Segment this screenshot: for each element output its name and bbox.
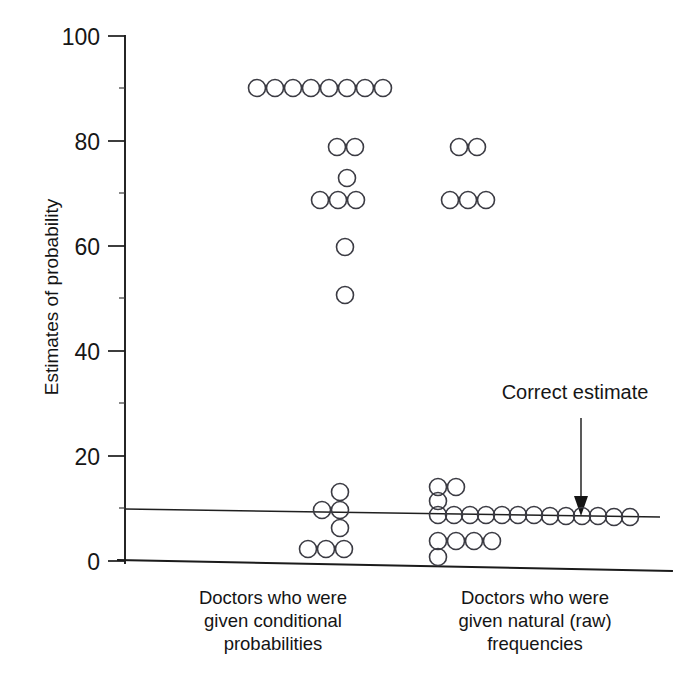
data-point xyxy=(466,533,483,550)
data-point xyxy=(460,192,477,209)
annotation-arrow-group xyxy=(574,418,588,516)
y-tick-label-80: 80 xyxy=(74,129,100,155)
data-point xyxy=(448,533,465,550)
y-tick-label-100: 100 xyxy=(62,24,100,50)
data-point xyxy=(462,507,479,524)
data-point xyxy=(337,239,354,256)
data-point xyxy=(332,484,349,501)
data-point xyxy=(448,479,465,496)
x-axis-group-label-left: Doctors who were given conditional proba… xyxy=(148,586,398,655)
y-axis-group: 100 80 60 40 20 0 xyxy=(62,24,125,575)
data-point xyxy=(339,170,356,187)
data-point xyxy=(332,502,349,519)
data-point xyxy=(430,549,447,566)
y-tick-label-20: 20 xyxy=(74,444,100,470)
data-point xyxy=(430,533,447,550)
data-point xyxy=(478,192,495,209)
y-tick-label-60: 60 xyxy=(74,234,100,260)
x-axis-baseline xyxy=(118,560,672,571)
data-point xyxy=(451,139,468,156)
data-point xyxy=(336,541,353,558)
data-point xyxy=(332,520,349,537)
data-point xyxy=(339,80,356,97)
data-point xyxy=(357,80,374,97)
data-point xyxy=(348,192,365,209)
series-left-points xyxy=(249,80,392,558)
data-point xyxy=(303,80,320,97)
data-point xyxy=(314,502,331,519)
baseline-group xyxy=(118,560,672,571)
data-point xyxy=(329,139,346,156)
chart-figure: Estimates of probability 100 80 60 40 20… xyxy=(0,0,678,676)
data-point xyxy=(312,192,329,209)
correct-estimate-annotation-label: Correct estimate xyxy=(502,381,649,403)
data-point xyxy=(318,541,335,558)
data-point xyxy=(337,287,354,304)
data-point xyxy=(484,533,501,550)
y-tick-label-40: 40 xyxy=(74,339,100,365)
correct-estimate-arrow-head xyxy=(574,496,588,516)
data-point xyxy=(375,80,392,97)
data-point xyxy=(469,139,486,156)
data-point xyxy=(442,192,459,209)
data-point xyxy=(446,507,463,524)
data-point xyxy=(300,541,317,558)
data-point xyxy=(285,80,302,97)
scatter-plot-canvas: 100 80 60 40 20 0 Correct estimate xyxy=(0,0,678,676)
data-point xyxy=(267,80,284,97)
x-axis-group-label-right: Doctors who were given natural (raw) fre… xyxy=(404,586,666,655)
series-right-points xyxy=(430,139,639,566)
data-point xyxy=(249,80,266,97)
data-point xyxy=(330,192,347,209)
data-point xyxy=(321,80,338,97)
y-tick-label-0: 0 xyxy=(87,549,100,575)
data-point xyxy=(347,139,364,156)
